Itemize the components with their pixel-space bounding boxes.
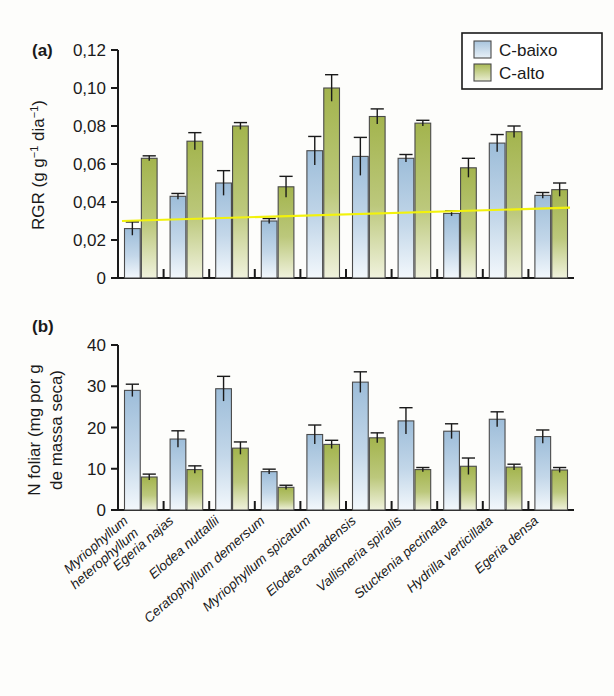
bar-c-alto xyxy=(369,117,385,279)
bar-c-baixo xyxy=(125,390,141,510)
bar-c-baixo xyxy=(170,196,186,278)
legend-swatch-c-baixo xyxy=(474,41,491,58)
legend: C-baixo C-alto xyxy=(462,33,602,89)
bar-c-baixo xyxy=(170,439,186,510)
chart-svg: (a) RGR (g g−1 dia−1) 00,020,040,060,080… xyxy=(0,0,614,696)
y-tick-label: 0 xyxy=(97,501,106,520)
bar-c-alto xyxy=(187,141,203,278)
bar-c-alto xyxy=(324,88,340,278)
bar-c-baixo xyxy=(489,419,505,510)
bar-c-baixo xyxy=(398,158,414,278)
bar-c-alto xyxy=(187,470,203,510)
bar-c-baixo xyxy=(261,472,277,510)
y-tick-label: 0,02 xyxy=(73,231,106,250)
bar-c-alto xyxy=(141,477,157,510)
bar-c-alto xyxy=(461,168,477,278)
bar-c-alto xyxy=(369,438,385,510)
y-tick-label: 0 xyxy=(97,269,106,288)
bar-c-baixo xyxy=(125,229,141,278)
figure-container: (a) RGR (g g−1 dia−1) 00,020,040,060,080… xyxy=(0,0,614,696)
y-tick-label: 0,12 xyxy=(73,41,106,60)
bar-c-baixo xyxy=(216,389,232,510)
y-tick-label: 20 xyxy=(87,419,106,438)
y-tick-label: 0,04 xyxy=(73,193,106,212)
bar-c-baixo xyxy=(216,183,232,278)
bar-c-alto xyxy=(415,123,431,278)
panel-b-tag: (b) xyxy=(32,317,54,336)
bar-c-alto xyxy=(415,470,431,510)
y-tick-label: 0,08 xyxy=(73,117,106,136)
bar-c-baixo xyxy=(535,437,551,510)
y-tick-label: 40 xyxy=(87,336,106,355)
y-tick-label: 0,10 xyxy=(73,79,106,98)
bar-c-baixo xyxy=(444,431,460,510)
bar-c-alto xyxy=(233,126,249,278)
bar-c-alto xyxy=(141,158,157,278)
y-tick-label: 0,06 xyxy=(73,155,106,174)
bar-c-baixo xyxy=(261,221,277,278)
bar-c-alto xyxy=(278,187,294,278)
bar-c-alto xyxy=(506,132,522,278)
panel-a-y-axis-title: RGR (g g−1 dia−1) xyxy=(28,100,48,230)
legend-swatch-c-alto xyxy=(474,64,491,81)
bar-c-alto xyxy=(552,190,568,278)
bar-c-baixo xyxy=(398,421,414,510)
legend-label-c-baixo: C-baixo xyxy=(499,41,558,60)
bar-c-alto xyxy=(233,448,249,510)
y-tick-label: 10 xyxy=(87,460,106,479)
legend-label-c-alto: C-alto xyxy=(499,64,544,83)
bar-c-alto xyxy=(506,467,522,510)
bar-c-baixo xyxy=(353,382,369,510)
panel-b-y-axis-title-line2: de massa seca) xyxy=(47,370,66,490)
bar-c-baixo xyxy=(307,435,323,510)
bar-c-alto xyxy=(552,470,568,510)
bar-c-alto xyxy=(278,487,294,510)
y-tick-label: 30 xyxy=(87,377,106,396)
bar-c-alto xyxy=(324,444,340,510)
panel-a-tag: (a) xyxy=(32,41,53,60)
bar-c-baixo xyxy=(444,213,460,278)
panel-b-y-axis-title-line1: N foliar (mg por g xyxy=(25,364,44,495)
